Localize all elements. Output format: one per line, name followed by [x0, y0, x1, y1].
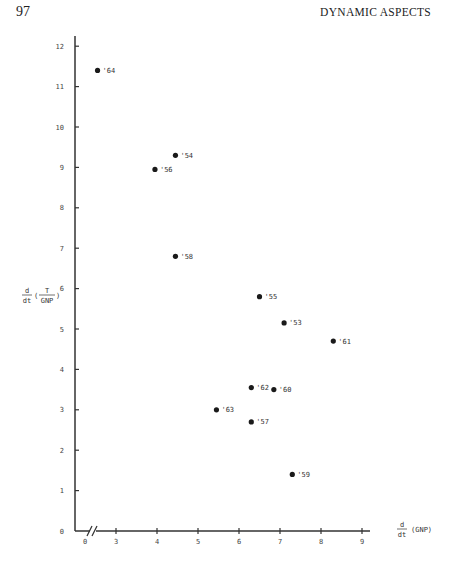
paren: ): [56, 292, 60, 300]
y-tick-label: 6: [60, 285, 64, 293]
x-label-dt: dt: [398, 531, 406, 539]
x-tick-label: 7: [278, 538, 282, 546]
data-point-label: '63: [221, 406, 234, 414]
y-tick-label: 5: [60, 326, 64, 334]
x-tick-label: 5: [196, 538, 200, 546]
axes: [75, 36, 370, 536]
data-point: [95, 68, 100, 73]
paren: (: [34, 292, 38, 300]
y-tick-label: 12: [56, 43, 64, 51]
x-tick-label: 9: [360, 538, 364, 546]
data-point-label: '59: [297, 471, 310, 479]
data-point-label: '62: [256, 384, 269, 392]
data-point-label: '60: [279, 386, 292, 394]
data-point: [257, 294, 262, 299]
data-point: [173, 254, 178, 259]
data-point-label: '55: [265, 293, 278, 301]
data-point: [271, 387, 276, 392]
data-point: [290, 472, 295, 477]
y-tick-label: 7: [60, 245, 64, 253]
y-tick-label: 0: [60, 528, 64, 536]
x-label-gnp: (GNP): [411, 526, 432, 534]
y-tick-label: 11: [56, 83, 64, 91]
y-tick-label: 10: [56, 124, 64, 132]
data-point-label: '56: [160, 166, 173, 174]
y-tick-label: 2: [60, 447, 64, 455]
data-point-label: '57: [256, 418, 269, 426]
x-tick-label: 4: [155, 538, 159, 546]
y-tick-label: 3: [60, 406, 64, 414]
data-point: [214, 407, 219, 412]
scatter-chart: 0123456789101112 03456789 '64'54'56'58'5…: [0, 0, 449, 564]
x-tick-label: 0: [83, 538, 87, 546]
x-label-d: d: [400, 521, 404, 529]
x-tick-label: 3: [114, 538, 118, 546]
data-point-label: '61: [338, 338, 351, 346]
y-label-T: T: [45, 287, 50, 295]
data-point-label: '53: [289, 319, 302, 327]
data-point: [282, 320, 287, 325]
x-tick-label: 8: [319, 538, 323, 546]
data-point-label: '58: [180, 253, 193, 261]
data-point: [249, 385, 254, 390]
y-label-d: d: [25, 287, 29, 295]
data-point: [173, 153, 178, 158]
data-points: '64'54'56'58'55'53'61'62'60'63'57'59: [95, 67, 351, 479]
y-tick-label: 9: [60, 164, 64, 172]
y-label-dt: dt: [23, 297, 31, 305]
y-tick-label: 1: [60, 487, 64, 495]
y-tick-label: 8: [60, 204, 64, 212]
data-point-label: '54: [180, 152, 193, 160]
y-label-GNP: GNP: [41, 297, 54, 305]
data-point-label: '64: [103, 67, 116, 75]
y-tick-label: 4: [60, 366, 64, 374]
x-tick-label: 6: [237, 538, 241, 546]
data-point: [331, 339, 336, 344]
data-point: [152, 167, 157, 172]
data-point: [249, 419, 254, 424]
